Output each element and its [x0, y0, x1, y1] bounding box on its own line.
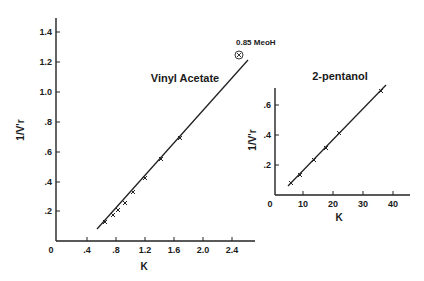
left-y-axis-label: 1/V'r	[15, 119, 26, 140]
left-y-tick: .4	[44, 177, 52, 187]
right-chart-title: 2-pentanol	[312, 70, 368, 82]
chart-canvas: .2 .4 .6 .8 1.0 1.2 1.4 0 .4 .8 1.2 1.6 …	[0, 0, 424, 281]
left-y-tick: .8	[44, 117, 52, 127]
left-chart-title: Vinyl Acetate	[151, 72, 219, 84]
left-x-tick: .8	[112, 245, 120, 255]
left-y-tick: .6	[44, 147, 52, 157]
annotation-label: 0.85 MeoH	[236, 38, 276, 47]
right-origin-label: 0	[267, 199, 272, 209]
right-x-tick: 40	[388, 199, 398, 209]
left-data-points	[103, 136, 182, 224]
circled-x-icon	[235, 51, 243, 59]
right-fit-line	[288, 85, 386, 186]
left-origin-label: 0	[48, 245, 53, 255]
right-y-axis-label: 1/V'r	[247, 129, 258, 150]
left-y-tick: 1.0	[39, 87, 52, 97]
right-y-tick: .2	[263, 160, 271, 170]
left-y-tick: .2	[44, 206, 52, 216]
left-y-tick: 1.2	[39, 57, 52, 67]
right-x-tick: 30	[358, 199, 368, 209]
left-x-tick: 1.6	[168, 245, 181, 255]
left-x-tick: 2.0	[197, 245, 210, 255]
left-x-tick: 2.4	[226, 245, 239, 255]
right-x-tick: 20	[328, 199, 338, 209]
left-x-tick: .4	[83, 245, 91, 255]
right-x-tick: 10	[298, 199, 308, 209]
left-chart: .2 .4 .6 .8 1.0 1.2 1.4 0 .4 .8 1.2 1.6 …	[15, 18, 276, 272]
right-x-axis-label: K	[335, 212, 343, 223]
left-y-tick: 1.4	[39, 27, 52, 37]
left-fit-line	[97, 60, 248, 229]
right-y-tick: .6	[263, 100, 271, 110]
left-x-axis-label: K	[140, 261, 148, 272]
left-x-tick: 1.2	[139, 245, 152, 255]
right-chart: .2 .4 .6 0 10 20 30 40 K 1/V'r 2-pentano…	[247, 70, 410, 223]
right-y-tick: .4	[263, 130, 271, 140]
